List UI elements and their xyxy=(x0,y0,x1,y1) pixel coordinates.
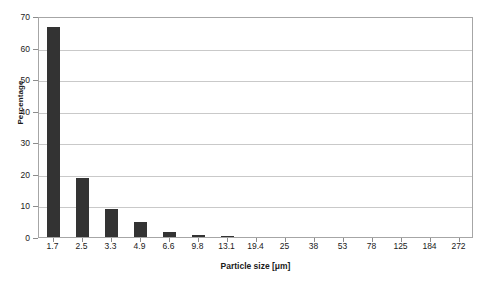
x-tick-mark xyxy=(430,238,431,242)
x-tick-mark xyxy=(285,238,286,242)
bar xyxy=(192,235,205,237)
x-tick-mark xyxy=(372,238,373,242)
x-tick-mark xyxy=(169,238,170,242)
y-tick-label: 30 xyxy=(0,139,30,148)
y-tick-label: 40 xyxy=(0,108,30,117)
y-tick-label: 60 xyxy=(0,45,30,54)
y-tick-mark xyxy=(33,238,38,239)
plot-area xyxy=(38,17,473,238)
y-tick-label: 20 xyxy=(0,171,30,180)
x-tick-mark xyxy=(82,238,83,242)
y-tick-label: 10 xyxy=(0,202,30,211)
y-tick-label: 70 xyxy=(0,13,30,22)
bar xyxy=(163,232,176,237)
x-tick-mark xyxy=(140,238,141,242)
x-tick-mark xyxy=(314,238,315,242)
bar-series xyxy=(39,18,472,237)
x-tick-mark xyxy=(459,238,460,242)
y-tick-label: 0 xyxy=(0,234,30,243)
x-tick-mark xyxy=(198,238,199,242)
x-tick-mark xyxy=(53,238,54,242)
bar xyxy=(134,222,147,237)
x-tick-mark xyxy=(343,238,344,242)
x-tick-label: 272 xyxy=(439,242,479,251)
x-tick-mark xyxy=(111,238,112,242)
x-tick-mark xyxy=(401,238,402,242)
y-tick-label: 50 xyxy=(0,76,30,85)
bar xyxy=(76,178,89,237)
bar xyxy=(221,236,234,237)
bar xyxy=(47,27,60,237)
x-tick-mark xyxy=(256,238,257,242)
particle-size-distribution-chart: Percentage 010203040506070 1.72.53.34.96… xyxy=(0,0,484,282)
x-tick-mark xyxy=(227,238,228,242)
bar xyxy=(105,209,118,237)
x-axis-title: Particle size [μm] xyxy=(38,261,473,271)
